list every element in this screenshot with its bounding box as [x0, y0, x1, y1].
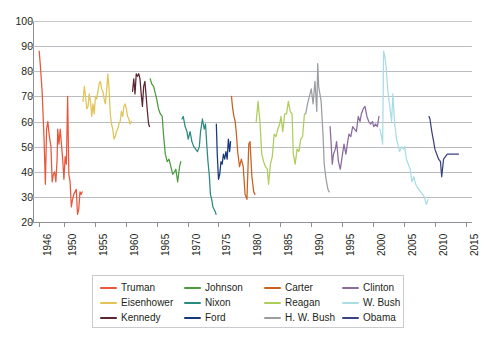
- x-tick-label: 1955: [99, 234, 109, 256]
- legend-label: Truman: [121, 283, 155, 293]
- x-tick-label: 2000: [377, 234, 387, 256]
- legend-label: Obama: [363, 313, 396, 323]
- legend-label: Nixon: [205, 298, 231, 308]
- series-line-johnson: [150, 79, 181, 182]
- legend-label: Reagan: [285, 298, 320, 308]
- legend-grid: TrumanJohnsonCarterClintonEisenhowerNixo…: [100, 280, 397, 325]
- legend: TrumanJohnsonCarterClintonEisenhowerNixo…: [92, 275, 404, 328]
- x-tick-mark: [280, 222, 281, 227]
- legend-label: Kennedy: [121, 313, 160, 323]
- x-tick-mark: [466, 222, 467, 227]
- x-tick-mark: [157, 222, 158, 227]
- legend-swatch-icon: [264, 317, 281, 319]
- legend-swatch-icon: [184, 302, 201, 304]
- legend-swatch-icon: [342, 317, 359, 319]
- legend-item[interactable]: Nixon: [184, 298, 264, 308]
- legend-swatch-icon: [100, 287, 117, 289]
- legend-label: W. Bush: [363, 298, 400, 308]
- series-line-clinton: [330, 106, 379, 169]
- legend-item[interactable]: Obama: [342, 313, 406, 323]
- legend-item[interactable]: Ford: [184, 313, 264, 323]
- x-tick-mark: [218, 222, 219, 227]
- legend-swatch-icon: [100, 302, 117, 304]
- plot-area: [33, 21, 472, 222]
- series-line-obama: [429, 116, 458, 176]
- legend-item[interactable]: H. W. Bush: [264, 313, 342, 323]
- x-tick-label: 1995: [346, 234, 356, 256]
- legend-label: Clinton: [363, 283, 394, 293]
- x-tick-label: 2010: [439, 234, 449, 256]
- y-axis: 1009080706050403020: [0, 0, 33, 250]
- x-tick-label: 1990: [315, 234, 325, 256]
- x-tick-label: 1975: [222, 234, 232, 256]
- series-line-truman: [39, 51, 82, 214]
- x-tick-label: 1950: [68, 234, 78, 256]
- legend-label: Carter: [285, 283, 313, 293]
- series-lines: [33, 21, 472, 222]
- series-line-w-bush: [380, 51, 428, 204]
- legend-item[interactable]: W. Bush: [342, 298, 406, 308]
- legend-swatch-icon: [342, 302, 359, 304]
- legend-item[interactable]: Kennedy: [100, 313, 184, 323]
- series-line-carter: [231, 96, 254, 199]
- x-tick-label: 1985: [284, 234, 294, 256]
- x-tick-label: 1965: [161, 234, 171, 256]
- series-line-ford: [216, 124, 230, 179]
- series-line-kennedy: [133, 74, 150, 127]
- x-tick-label: 1960: [130, 234, 140, 256]
- x-tick-label: 2005: [408, 234, 418, 256]
- series-line-nixon: [182, 116, 216, 214]
- x-tick-mark: [404, 222, 405, 227]
- x-tick-mark: [249, 222, 250, 227]
- x-tick-mark: [64, 222, 65, 227]
- x-tick-label: 2015: [470, 234, 480, 256]
- x-tick-mark: [95, 222, 96, 227]
- legend-swatch-icon: [100, 317, 117, 319]
- legend-item[interactable]: Johnson: [184, 283, 264, 293]
- series-line-reagan: [256, 101, 304, 184]
- legend-label: Ford: [205, 313, 226, 323]
- legend-swatch-icon: [184, 287, 201, 289]
- x-tick-label: 1980: [253, 234, 263, 256]
- legend-swatch-icon: [342, 287, 359, 289]
- x-tick-mark: [188, 222, 189, 227]
- legend-swatch-icon: [264, 302, 281, 304]
- x-tick-mark: [435, 222, 436, 227]
- x-tick-label: 1970: [192, 234, 202, 256]
- series-line-eisenhower: [83, 74, 131, 139]
- legend-item[interactable]: Carter: [264, 283, 342, 293]
- chart-page: 1009080706050403020 19461950195519601965…: [0, 0, 487, 341]
- legend-item[interactable]: Reagan: [264, 298, 342, 308]
- legend-swatch-icon: [184, 317, 201, 319]
- legend-item[interactable]: Eisenhower: [100, 298, 184, 308]
- x-axis: 1946195019551960196519701975198019851990…: [0, 222, 487, 282]
- legend-label: Eisenhower: [121, 298, 173, 308]
- x-tick-mark: [373, 222, 374, 227]
- legend-item[interactable]: Truman: [100, 283, 184, 293]
- x-tick-mark: [126, 222, 127, 227]
- legend-label: Johnson: [205, 283, 243, 293]
- series-line-h-w-bush: [306, 64, 330, 192]
- x-tick-mark: [342, 222, 343, 227]
- x-tick-mark: [311, 222, 312, 227]
- legend-item[interactable]: Clinton: [342, 283, 406, 293]
- legend-label: H. W. Bush: [285, 313, 335, 323]
- x-tick-label: 1946: [43, 234, 53, 256]
- legend-swatch-icon: [264, 287, 281, 289]
- x-tick-mark: [39, 222, 40, 227]
